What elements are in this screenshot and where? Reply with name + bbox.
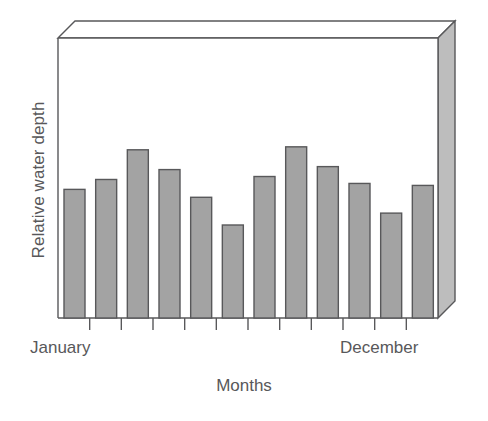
bar-december — [412, 185, 433, 318]
bar-chart-figure: Relative water depth January December Mo… — [0, 0, 488, 421]
x-tick-label-december: December — [340, 338, 418, 358]
bar-july — [254, 177, 275, 318]
x-axis-title: Months — [0, 376, 488, 396]
bar-august — [286, 147, 307, 318]
bar-february — [96, 179, 117, 318]
box-right-face — [438, 21, 455, 318]
bar-january — [64, 189, 85, 318]
bar-october — [349, 183, 370, 318]
bar-june — [222, 225, 243, 318]
box-top-face — [58, 21, 455, 38]
bar-september — [317, 167, 338, 318]
bar-november — [381, 213, 402, 318]
bar-april — [159, 170, 180, 318]
bar-march — [127, 150, 148, 318]
bar-may — [191, 197, 212, 318]
x-tick-label-january: January — [30, 338, 90, 358]
x-axis-ticks — [90, 318, 407, 330]
